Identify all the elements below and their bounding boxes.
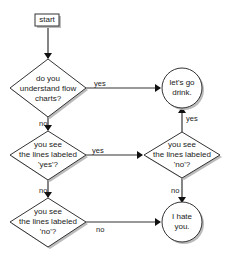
hate-line-1: I hate: [162, 212, 202, 222]
q4-text: you see the lines labeled 'no'?: [10, 207, 86, 237]
q2-line-3: 'yes'?: [10, 160, 86, 170]
drink-text: let's go drink.: [162, 78, 202, 98]
q3-line-3: 'no'?: [144, 160, 220, 170]
q4-line-1: you see: [10, 207, 86, 217]
hate-text: I hate you.: [162, 212, 202, 232]
edge-label-q2-no: no: [39, 186, 47, 195]
edge-label-q3-no: no: [171, 186, 179, 195]
edge-label-q3-yes: yes: [186, 114, 198, 123]
edge-label-q1-yes: yes: [94, 79, 106, 88]
q1-line-1: do you: [13, 74, 83, 84]
q3-text: you see the lines labeled 'no'?: [144, 140, 220, 170]
drink-line-1: let's go: [162, 78, 202, 88]
q2-line-2: the lines labeled: [10, 150, 86, 160]
flowchart-canvas: start do you understand flow charts? let…: [0, 0, 231, 257]
q1-line-2: understand flow: [13, 84, 83, 94]
edge-label-q1-no: no: [39, 119, 47, 128]
hate-line-2: you.: [162, 222, 202, 232]
q3-line-2: the lines labeled: [144, 150, 220, 160]
q4-line-2: the lines labeled: [10, 217, 86, 227]
q1-text: do you understand flow charts?: [13, 74, 83, 104]
q4-line-3: 'no'?: [10, 227, 86, 237]
q1-line-3: charts?: [13, 94, 83, 104]
edge-label-q2-yes: yes: [92, 146, 104, 155]
edge-label-q4-no: no: [96, 225, 104, 234]
start-label: start: [35, 15, 59, 25]
q3-line-1: you see: [144, 140, 220, 150]
q2-text: you see the lines labeled 'yes'?: [10, 140, 86, 170]
drink-line-2: drink.: [162, 88, 202, 98]
q2-line-1: you see: [10, 140, 86, 150]
